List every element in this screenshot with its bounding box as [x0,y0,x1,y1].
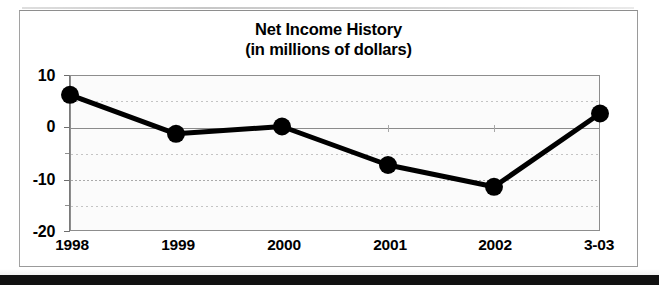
chart-screenshot: Net Income History (in millions of dolla… [0,0,659,285]
y-axis-spine [69,75,70,232]
gridline-minus15 [71,206,599,207]
gridline-minus10 [71,180,599,181]
chart-subtitle: (in millions of dollars) [19,39,638,59]
scan-artifact-top [22,7,634,9]
x-axis-label-2001: 2001 [350,236,430,254]
plot-area [70,75,600,231]
y-tick-minus20 [64,231,69,232]
y-axis-label-0: 0 [46,119,55,135]
x-axis-label-3-03: 3-03 [559,236,639,254]
gridline-minus5 [71,154,599,155]
y-tick-minus5 [65,153,69,154]
y-axis-label-minus10: -10 [33,172,55,188]
y-tick-5 [65,101,69,102]
zero-tick-2001 [388,125,389,132]
gridline-5 [71,101,599,102]
y-tick-10 [64,75,69,76]
y-axis-label-10: 10 [38,68,55,84]
zero-tick-2002 [494,125,495,132]
gridline-zero [71,128,599,129]
y-tick-minus15 [65,205,69,206]
x-axis-label-1998: 1998 [32,236,112,254]
x-axis-label-2002: 2002 [455,236,535,254]
x-axis-label-2000: 2000 [244,236,324,254]
chart-title: Net Income History [19,19,638,39]
scan-artifact-bottom-bar [0,275,659,285]
y-tick-0 [64,127,69,128]
y-tick-minus10 [64,180,69,181]
x-axis-label-1999: 1999 [138,236,218,254]
